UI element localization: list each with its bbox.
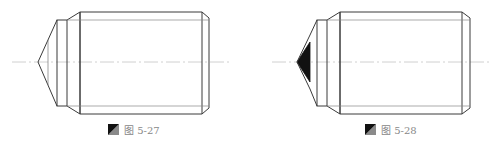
figure-marker-icon bbox=[365, 124, 376, 135]
caption-fig-5-27: 图 5-27 bbox=[108, 122, 160, 137]
caption-text: 图 5-27 bbox=[124, 122, 160, 137]
neck-chamfer-bottom bbox=[67, 106, 80, 114]
front-collar bbox=[317, 20, 327, 106]
figure-5-27 bbox=[12, 12, 232, 114]
main-body-outline bbox=[340, 12, 470, 114]
caption-fig-5-28: 图 5-28 bbox=[365, 122, 417, 137]
caption-text: 图 5-28 bbox=[381, 122, 417, 137]
cone-tip bbox=[38, 20, 57, 106]
neck-chamfer-top bbox=[67, 12, 80, 20]
figure-5-28 bbox=[272, 12, 489, 114]
main-body-outline bbox=[80, 12, 209, 114]
neck-chamfer-top bbox=[327, 12, 340, 20]
figure-marker-icon bbox=[108, 124, 119, 135]
neck-chamfer-bottom bbox=[327, 106, 340, 114]
front-collar bbox=[57, 20, 67, 106]
